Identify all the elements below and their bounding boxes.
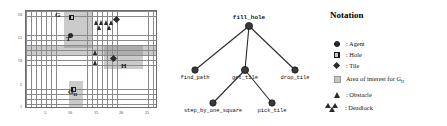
task-tree-panel: fill_hole find_path get_tile drop_tile s…: [165, 0, 310, 126]
y-tick-4: 1: [8, 104, 22, 109]
legend-obstacle-label: : Obstacle: [346, 91, 372, 98]
tree-node-pick_tile: [269, 100, 275, 106]
notation-legend-panel: Notation : Agent : Hole : Tile Area of i…: [310, 0, 447, 126]
tree-label-get_tile: get_tile: [222, 75, 268, 81]
deadlock-marker-left-upper: [93, 50, 99, 56]
legend-area: Area of interest for GH: [328, 74, 404, 85]
y-tick-2: 10: [8, 58, 22, 63]
tree-node-find_path: [192, 67, 198, 73]
grid-label-gh: GH: [68, 88, 77, 97]
y-tick-3: 5: [8, 82, 22, 87]
gridworld-panel: G T H GH 20 15 10 5 1 5 10 15 20 25: [0, 0, 165, 126]
tree-label-step_by_one_square: step_by_one_square: [173, 108, 253, 114]
x-tick-2: 15: [89, 110, 103, 115]
obstacle-icon: [328, 89, 346, 100]
legend-hole-label: : Hole: [346, 51, 362, 58]
legend-obstacle: : Obstacle: [328, 89, 372, 100]
tree-node-drop_tile: [292, 67, 298, 73]
x-tick-1: 10: [63, 110, 77, 115]
deadlock-marker-left-lower: [93, 60, 99, 66]
legend-tile-label: : Tile: [346, 62, 359, 69]
legend-agent: : Agent: [328, 38, 365, 49]
legend-area-label: Area of interest for GH: [346, 75, 404, 84]
area-of-interest-icon: [328, 74, 346, 85]
grid-label-g: G: [55, 11, 60, 19]
tree-node-step_by_one_square: [210, 100, 216, 106]
edge-fill_hole-get_tile: [245, 26, 249, 70]
figure-root: G T H GH 20 15 10 5 1 5 10 15 20 25: [0, 0, 447, 126]
y-tick-1: 15: [8, 35, 22, 40]
legend-deadlock: : Deadlock: [325, 102, 373, 113]
grid-label-h: H: [121, 62, 126, 70]
tree-label-pick_tile: pick_tile: [249, 108, 295, 114]
legend-hole: : Hole: [328, 49, 362, 60]
tile-icon: [328, 60, 346, 71]
tree-label-fill_hole: fill_hole: [224, 14, 274, 21]
y-tick-0: 20: [8, 12, 22, 17]
edge-fill_hole-drop_tile: [249, 26, 295, 70]
legend-deadlock-label: : Deadlock: [345, 104, 373, 111]
tree-label-find_path: find_path: [170, 75, 220, 81]
tree-node-fill_hole: [245, 22, 252, 29]
legend-agent-label: : Agent: [346, 40, 365, 47]
x-tick-3: 20: [114, 110, 128, 115]
x-tick-0: 5: [38, 110, 52, 115]
deadlock-icon: [325, 102, 345, 113]
hole-marker-g: [69, 15, 74, 20]
edge-fill_hole-find_path: [195, 26, 249, 70]
grid-label-t: T: [66, 35, 71, 43]
hole-icon: [328, 49, 346, 60]
legend-title: Notation: [330, 10, 364, 20]
agent-icon: [328, 38, 346, 49]
deadlock-cluster-top-mid: [104, 20, 115, 30]
legend-tile: : Tile: [328, 60, 359, 71]
x-tick-4: 25: [140, 110, 154, 115]
gridworld-plot: [25, 10, 157, 108]
tree-node-get_tile: [241, 66, 248, 73]
